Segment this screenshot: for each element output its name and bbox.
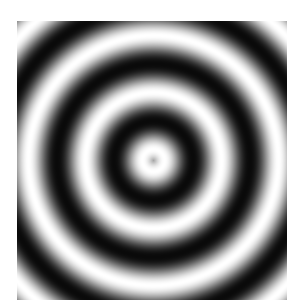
- concentric-rings-image: [17, 21, 287, 300]
